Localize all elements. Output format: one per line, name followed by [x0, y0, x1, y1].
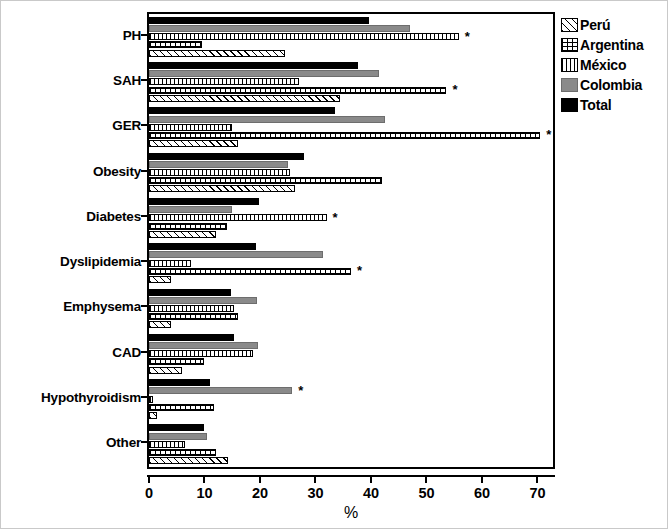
x-axis-line — [147, 475, 555, 477]
bar-emphysema-mxico — [149, 305, 553, 312]
legend-item-per[interactable]: Perú — [561, 15, 665, 34]
bar-emphysema-argentina — [149, 313, 553, 320]
chart-figure: PHSAHGERObesityDiabetesDyslipidemiaEmphy… — [0, 0, 668, 529]
x-axis-tick-label: 40 — [363, 485, 379, 501]
bar-dyslipidemia-colombia — [149, 251, 553, 258]
bar-diabetes-colombia — [149, 206, 553, 213]
bar-obesity-per — [149, 185, 553, 192]
plot-area: ****** — [149, 14, 553, 467]
bar-cad-colombia — [149, 342, 553, 349]
y-axis-label-emphysema: Emphysema — [63, 299, 141, 314]
bar-fill — [149, 124, 232, 131]
x-axis-tick-label: 50 — [418, 485, 434, 501]
legend-swatch-icon — [561, 38, 578, 52]
bar-diabetes-argentina — [149, 223, 553, 230]
x-axis-tick — [259, 475, 261, 483]
x-axis-tick — [148, 475, 150, 483]
y-axis-label-hypothyroidism: Hypothyroidism — [41, 390, 141, 405]
bar-sah-per — [149, 95, 553, 102]
bar-fill — [149, 223, 227, 230]
x-axis-tick-label: 70 — [529, 485, 545, 501]
bar-hypothyroidism-mxico — [149, 396, 553, 403]
bar-fill — [149, 62, 358, 69]
bar-ph-colombia — [149, 25, 553, 32]
bar-fill — [149, 116, 385, 123]
y-axis-label-cad: CAD — [112, 344, 141, 359]
bar-other-argentina — [149, 449, 553, 456]
bar-fill — [149, 132, 540, 139]
legend-swatch-icon — [561, 78, 578, 92]
x-axis-tick-label: 20 — [252, 485, 268, 501]
bar-ger-argentina: * — [149, 132, 553, 139]
bar-fill — [149, 441, 185, 448]
bar-obesity-mxico — [149, 169, 553, 176]
bar-fill — [149, 153, 304, 160]
bar-fill — [149, 140, 238, 147]
legend-label: Argentina — [580, 37, 644, 53]
bar-fill — [149, 87, 446, 94]
y-axis-label-obesity: Obesity — [93, 163, 141, 178]
bar-obesity-colombia — [149, 161, 553, 168]
bar-fill — [149, 177, 382, 184]
bar-fill — [149, 457, 228, 464]
legend-item-argentina[interactable]: Argentina — [561, 35, 665, 54]
bar-sah-argentina: * — [149, 87, 553, 94]
bar-emphysema-total — [149, 289, 553, 296]
bar-fill — [149, 231, 216, 238]
bar-fill — [149, 243, 256, 250]
bar-fill — [149, 70, 379, 77]
bar-ph-per — [149, 50, 553, 57]
bar-sah-mxico — [149, 78, 553, 85]
bar-emphysema-colombia — [149, 297, 553, 304]
legend-item-colombia[interactable]: Colombia — [561, 75, 665, 94]
legend-label: Colombia — [580, 77, 642, 93]
bar-hypothyroidism-argentina — [149, 404, 553, 411]
bar-fill — [149, 313, 238, 320]
bar-hypothyroidism-per — [149, 412, 553, 419]
x-axis-tick — [370, 475, 372, 483]
bar-cad-total — [149, 334, 553, 341]
x-axis-tick — [481, 475, 483, 483]
bar-other-mxico — [149, 441, 553, 448]
bar-fill — [149, 206, 232, 213]
y-axis-label-diabetes: Diabetes — [86, 208, 141, 223]
bar-fill — [149, 350, 253, 357]
bar-fill — [149, 449, 216, 456]
bar-dyslipidemia-argentina: * — [149, 268, 553, 275]
bar-diabetes-mxico: * — [149, 214, 553, 221]
x-axis-tick-label: 30 — [307, 485, 323, 501]
bar-obesity-total — [149, 153, 553, 160]
bar-fill — [149, 185, 295, 192]
bar-fill — [149, 198, 259, 205]
legend-swatch-icon — [561, 58, 578, 72]
bar-fill — [149, 107, 335, 114]
bar-sah-colombia — [149, 70, 553, 77]
bar-fill — [149, 17, 369, 24]
y-axis-label-dyslipidemia: Dyslipidemia — [60, 254, 141, 269]
bar-diabetes-total — [149, 198, 553, 205]
legend-item-total[interactable]: Total — [561, 95, 665, 114]
legend: PerúArgentinaMéxicoColombiaTotal — [561, 15, 665, 115]
x-axis-tick — [425, 475, 427, 483]
bar-obesity-argentina — [149, 177, 553, 184]
x-axis-tick-label: 60 — [474, 485, 490, 501]
bar-sah-total — [149, 62, 553, 69]
y-axis-labels: PHSAHGERObesityDiabetesDyslipidemiaEmphy… — [1, 12, 141, 469]
x-axis-tick — [536, 475, 538, 483]
bar-other-total — [149, 424, 553, 431]
y-axis-label-ger: GER — [112, 118, 141, 133]
x-axis-title: % — [147, 504, 555, 522]
x-axis-tick — [314, 475, 316, 483]
bar-fill — [149, 334, 234, 341]
bar-fill — [149, 305, 234, 312]
bar-dyslipidemia-per — [149, 276, 553, 283]
bar-hypothyroidism-total — [149, 379, 553, 386]
bar-cad-mxico — [149, 350, 553, 357]
bar-fill — [149, 412, 157, 419]
legend-item-mxico[interactable]: México — [561, 55, 665, 74]
bar-ger-total — [149, 107, 553, 114]
bar-fill — [149, 161, 288, 168]
bar-fill — [149, 78, 299, 85]
x-axis-tick-label: 10 — [196, 485, 212, 501]
x-axis-tick — [203, 475, 205, 483]
